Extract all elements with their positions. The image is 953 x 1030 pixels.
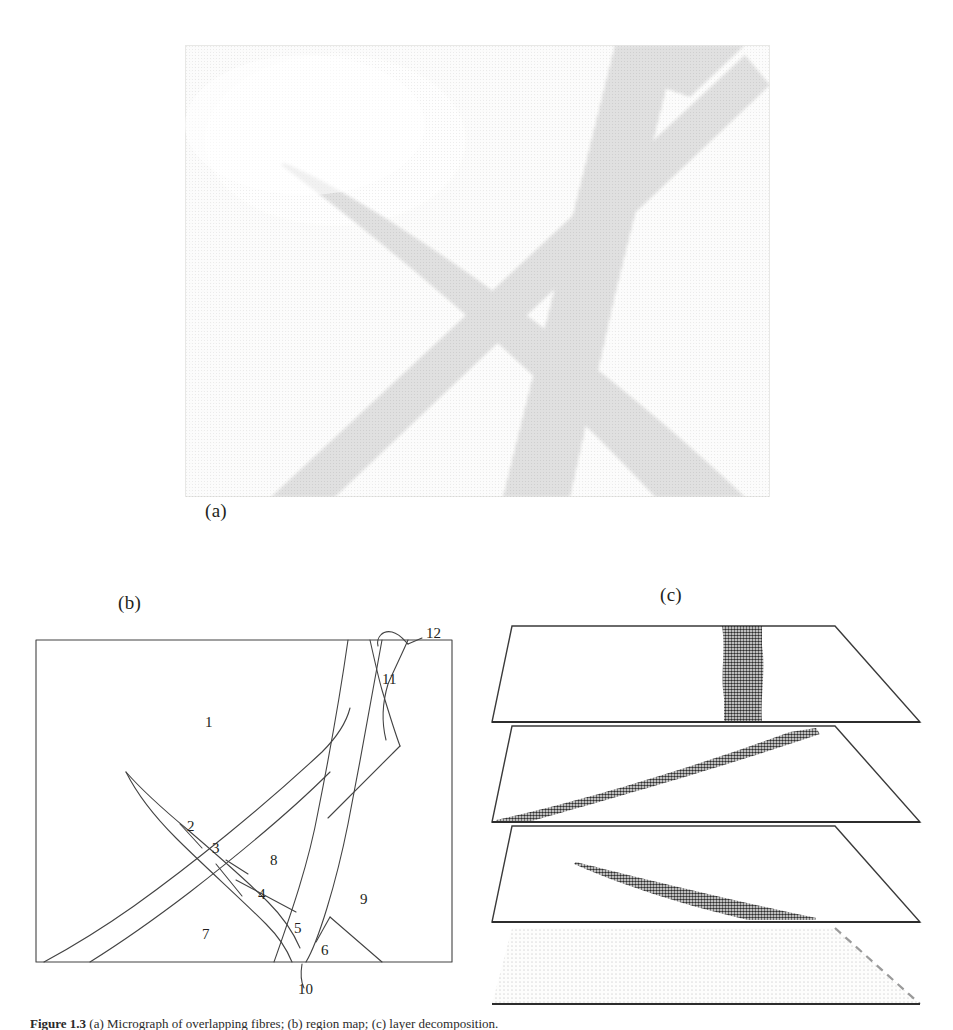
layer-3-tapered-wedge — [492, 826, 920, 922]
micrograph-vignette — [185, 55, 425, 195]
panel-c-layers — [490, 604, 950, 1014]
sep-3-8 — [226, 860, 248, 874]
region-label-10: 10 — [298, 981, 313, 997]
layer-1-band — [722, 626, 763, 722]
panel-a-label: (a) — [205, 500, 227, 522]
region-label-2: 2 — [187, 818, 195, 834]
leader-12-curl — [378, 632, 408, 646]
caption-number: Figure 1.3 — [30, 1016, 86, 1030]
panel-b-label: (b) — [118, 592, 141, 614]
region-label-3: 3 — [212, 840, 220, 856]
region-label-12: 12 — [426, 625, 441, 641]
layer-4-background-plane — [492, 928, 920, 1004]
region-number-labels: 1 2 3 4 5 6 7 8 9 10 11 12 — [187, 625, 441, 997]
region-map-frame — [36, 640, 452, 962]
layer-1-vertical-band — [492, 626, 920, 722]
layer-2-diagonal-band — [492, 726, 920, 822]
caption-text: (a) Micrograph of overlapping fibres; (b… — [86, 1016, 498, 1030]
sep-9-6 — [330, 917, 382, 962]
region-label-11: 11 — [382, 671, 396, 687]
band-11-left-edge — [370, 640, 400, 746]
region-label-1: 1 — [205, 714, 213, 730]
band-vertical-right-edge — [306, 640, 382, 962]
micrograph-svg — [185, 45, 770, 497]
panel-a-micrograph — [185, 45, 770, 497]
region-label-6: 6 — [321, 942, 329, 958]
figure-caption: Figure 1.3 (a) Micrograph of overlapping… — [30, 1016, 930, 1030]
region-label-5: 5 — [294, 920, 302, 936]
sep-8-4 — [236, 880, 296, 912]
band-11-right-edge — [383, 640, 408, 740]
region-map-svg: 1 2 3 4 5 6 7 8 9 10 11 12 — [30, 612, 470, 1012]
panel-c-label: (c) — [660, 584, 682, 606]
band-vertical-left-edge — [274, 640, 348, 962]
leader-12-stem — [408, 638, 422, 644]
region-label-9: 9 — [360, 891, 368, 907]
region-label-4: 4 — [258, 886, 266, 902]
band-11-tail — [328, 746, 400, 818]
figure-root: (a) (b) (c) — [0, 0, 953, 1030]
fibre-rising-upper-edge — [44, 708, 350, 962]
layers-svg — [490, 604, 950, 1014]
region-label-7: 7 — [202, 926, 210, 942]
layer-4-fill — [492, 928, 920, 1004]
region-label-8: 8 — [270, 852, 278, 868]
panel-b-region-map: 1 2 3 4 5 6 7 8 9 10 11 12 — [30, 612, 470, 1012]
layer-1-outline — [492, 626, 920, 722]
